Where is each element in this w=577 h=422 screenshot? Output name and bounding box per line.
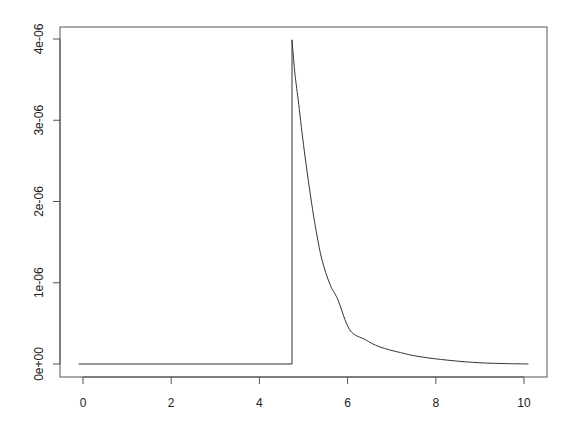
y-tick-label: 1e-06 — [32, 267, 46, 298]
y-axis: 0e+001e-062e-063e-064e-06 — [32, 23, 60, 381]
y-tick-label: 2e-06 — [32, 186, 46, 217]
x-tick-label: 2 — [168, 396, 175, 410]
x-tick-label: 4 — [256, 396, 263, 410]
x-axis: 0246810 — [80, 377, 531, 410]
y-tick-label: 3e-06 — [32, 105, 46, 136]
density-line — [79, 40, 529, 364]
plot-frame — [60, 27, 547, 377]
x-tick-label: 8 — [432, 396, 439, 410]
x-tick-label: 0 — [80, 396, 87, 410]
x-tick-label: 10 — [517, 396, 531, 410]
y-tick-label: 4e-06 — [32, 23, 46, 54]
chart-canvas: 0246810 0e+001e-062e-063e-064e-06 — [0, 0, 577, 422]
x-tick-label: 6 — [344, 396, 351, 410]
y-tick-label: 0e+00 — [32, 347, 46, 381]
